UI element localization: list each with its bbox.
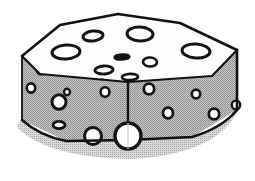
hole-top-7	[95, 66, 113, 75]
hole-top-8	[122, 74, 138, 81]
hole-left-7	[85, 128, 102, 145]
hole-top-6	[143, 57, 157, 66]
hole-top-3	[52, 44, 81, 60]
hole-right-1	[144, 84, 154, 95]
top-face-group	[22, 14, 237, 82]
hole-left-4	[52, 95, 66, 109]
hole-left-2	[27, 83, 35, 92]
hole-left-3	[64, 89, 70, 95]
cheese-illustration: Swiss Cheese Block	[0, 0, 255, 181]
hole-top-5	[115, 54, 129, 59]
hole-top-4	[182, 43, 211, 59]
hole-right-3	[163, 108, 173, 119]
hole-left-5	[101, 87, 110, 97]
hole-top-1	[83, 30, 104, 42]
swiss-cheese-block-graphic	[0, 0, 255, 181]
front-edge-hole-group	[115, 123, 141, 149]
hole-right-2	[192, 90, 200, 99]
hole-left-6	[53, 121, 65, 128]
hole-top-2	[127, 26, 154, 41]
hole-right-4	[209, 109, 219, 120]
